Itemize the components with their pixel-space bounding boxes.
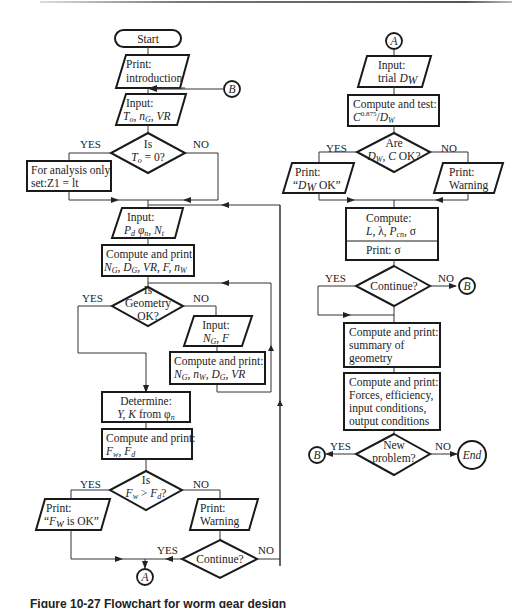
analysis-only-process: For analysis only, set:Z1 = lt (27, 161, 112, 191)
no-label: NO (435, 440, 451, 452)
decision-fw-gt-fd: Is Fw > Fd? (110, 471, 182, 510)
input-trial-dw-io: Input: trial DW (358, 56, 431, 87)
svg-text:Are: Are (385, 137, 402, 149)
compute-print-geometry-process: Compute and print: NG, DG, VR, F, nW (102, 245, 195, 276)
svg-text:B: B (228, 83, 235, 95)
no-label: NO (193, 478, 209, 490)
svg-text:Is: Is (144, 138, 153, 150)
svg-text:A: A (140, 571, 149, 583)
svg-text:Geometry: Geometry (125, 297, 171, 310)
svg-text:“Fw is OK”: “Fw is OK” (44, 515, 99, 529)
svg-text:Warning: Warning (449, 179, 489, 192)
yes-label: YES (80, 478, 101, 490)
svg-text:Input:: Input: (202, 319, 229, 332)
svg-text:trial DW: trial DW (378, 72, 419, 86)
decision-to-zero: Is To = 0? (111, 133, 185, 173)
svg-text:“DW OK”: “DW OK” (293, 179, 341, 193)
svg-text:B: B (463, 280, 470, 292)
start-terminal: Start (115, 30, 181, 47)
svg-text:NG, F: NG, F (202, 332, 230, 346)
connector-a-outgoing: A (137, 569, 153, 585)
svg-text:Print:: Print: (295, 166, 321, 178)
connector-a-incoming: A (386, 33, 402, 49)
svg-text:Continue?: Continue? (370, 280, 417, 292)
svg-text:introduction: introduction (126, 72, 182, 84)
svg-text:Pd φn, Nt: Pd φn, Nt (123, 224, 165, 238)
decision-continue-right: Continue? (356, 266, 430, 306)
svg-text:output conditions: output conditions (349, 415, 430, 428)
end-terminal: End (458, 441, 486, 469)
decision-geometry-ok: Is Geometry OK? (112, 284, 183, 326)
yes-label: YES (82, 292, 103, 304)
yes-label: YES (157, 544, 178, 556)
svg-text:For analysis only,: For analysis only, (31, 164, 112, 177)
decision-dw-c-ok: Are DW, C OK? (357, 133, 430, 172)
svg-text:Input:: Input: (378, 59, 405, 72)
svg-text:Start: Start (137, 33, 160, 45)
yes-label: YES (80, 138, 101, 150)
svg-text:OK?: OK? (137, 310, 159, 322)
figure-caption: Figure 10-27 Flowchart for worm gear des… (30, 597, 286, 608)
svg-text:Compute and print:: Compute and print: (106, 248, 195, 261)
yes-label: YES (330, 440, 351, 452)
print-fw-ok-io: Print: “Fw is OK” (36, 499, 110, 530)
compute-print-ng-nw-dg-vr-process: Compute and print: NG, nW, DG, VR (170, 352, 265, 384)
input-pd-phin-nt-io: Input: Pd φn, Nt (112, 208, 183, 238)
print-warning-io: Print: Warning (190, 499, 258, 530)
svg-text:Print:: Print: (449, 166, 475, 178)
svg-text:Determine:: Determine: (120, 395, 172, 407)
yes-label: YES (325, 272, 346, 284)
svg-text:Is: Is (144, 284, 153, 296)
svg-text:Compute and print:: Compute and print: (349, 376, 438, 389)
svg-text:Compute and print:: Compute and print: (174, 355, 263, 368)
determine-y-k-process: Determine: Y, K from φn (102, 392, 190, 422)
svg-text:set:Z1 = lt: set:Z1 = lt (31, 177, 79, 189)
svg-text:Print:: Print: (200, 502, 226, 514)
svg-text:Warning: Warning (200, 515, 240, 528)
decision-new-problem: New problem? (356, 434, 430, 475)
input-to-ng-vr-io: Input: To, nG, VR (116, 94, 186, 125)
no-label: NO (193, 292, 209, 304)
svg-text:problem?: problem? (372, 452, 415, 465)
no-label: NO (193, 138, 209, 150)
print-dw-ok-io: Print: “DW OK” (283, 163, 354, 193)
svg-text:input conditions,: input conditions, (349, 402, 426, 415)
svg-text:Print: σ: Print: σ (366, 244, 401, 256)
input-ng-f-io: Input: NG, F (184, 316, 252, 346)
connector-b-incoming: B (224, 81, 240, 97)
svg-text:Forces, efficiency,: Forces, efficiency, (349, 389, 433, 402)
svg-text:End: End (462, 449, 482, 461)
svg-text:geometry: geometry (349, 352, 393, 365)
connector-b-outgoing-2: B (309, 447, 325, 463)
no-label: NO (258, 544, 274, 556)
forces-efficiency-process: Compute and print: Forces, efficiency, i… (344, 373, 440, 430)
compute-stress-process: Compute: L, λ, Pcn, σ Print: σ (346, 208, 438, 260)
svg-text:A: A (389, 35, 398, 47)
svg-text:Print:: Print: (126, 58, 152, 70)
svg-text:Is: Is (142, 474, 151, 486)
svg-text:L, λ, Pcn, σ: L, λ, Pcn, σ (365, 225, 417, 239)
compute-print-fw-fd-process: Compute and print: Fw, Fd (102, 429, 195, 459)
compute-test-process: Compute and test: C0.875/DW (348, 95, 439, 126)
svg-text:Input:: Input: (127, 211, 154, 224)
svg-text:Compute:: Compute: (366, 212, 411, 225)
flowchart: Start Print: introduction B Input: To, n… (0, 0, 526, 608)
svg-text:Compute and print:: Compute and print: (349, 326, 438, 339)
svg-text:To = 0?: To = 0? (131, 151, 165, 165)
no-label: NO (438, 272, 454, 284)
svg-text:B: B (313, 449, 320, 461)
svg-text:New: New (383, 439, 405, 451)
print-warning-right-io: Print: Warning (434, 163, 503, 193)
svg-text:Input:: Input: (126, 97, 153, 110)
decision-continue-left: Continue? (182, 540, 257, 578)
svg-text:summary of: summary of (349, 339, 404, 352)
svg-text:DW, C OK?: DW, C OK? (367, 150, 421, 164)
summary-geometry-process: Compute and print: summary of geometry (344, 323, 440, 367)
connector-b-outgoing-1: B (459, 278, 475, 294)
svg-text:Print:: Print: (46, 502, 72, 514)
svg-text:Y, K from φn: Y, K from φn (117, 408, 175, 422)
print-introduction-io: Print: introduction (116, 55, 189, 88)
svg-text:Compute and print:: Compute and print: (106, 432, 195, 445)
svg-text:Continue?: Continue? (196, 553, 243, 565)
